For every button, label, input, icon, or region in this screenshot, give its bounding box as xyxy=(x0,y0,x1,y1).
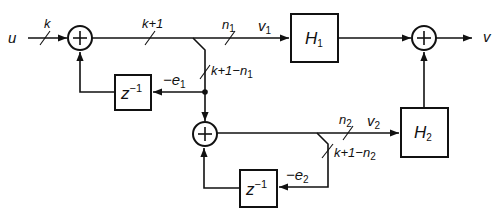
bus-width-k: k xyxy=(44,16,52,31)
h1-block: H1 xyxy=(291,14,338,62)
bus-width-k-plus-1: k+1 xyxy=(142,16,163,31)
output-label: v xyxy=(483,28,492,45)
signal-e1-label: −e1 xyxy=(163,71,186,90)
delay-block-1: z−1 xyxy=(115,75,151,110)
input-label: u xyxy=(8,29,17,46)
summer-2 xyxy=(193,122,217,146)
stage1-error-branch xyxy=(193,38,205,121)
delay-block-2: z−1 xyxy=(240,170,277,207)
bus-width-err1: k+1−n1 xyxy=(211,63,253,80)
bus-width-err2: k+1−n2 xyxy=(334,145,376,162)
bus-width-n1: n1 xyxy=(222,17,235,34)
input-signal: u k xyxy=(8,16,67,46)
h2-block: H2 xyxy=(401,108,448,157)
delay2-to-sum2-wire xyxy=(204,148,240,188)
summer-1 xyxy=(68,26,92,50)
signal-v1-label: v1 xyxy=(258,17,272,36)
signal-e2-label: −e2 xyxy=(286,166,309,185)
delay1-to-sum1-wire xyxy=(80,52,115,92)
signal-v2-label: v2 xyxy=(367,112,381,131)
summer-3 xyxy=(412,26,436,50)
cascaded-quantizer-diagram: u k k+1 n1 v1 k+1−n1 −e1 z−1 H1 v xyxy=(0,0,503,222)
bus-width-n2: n2 xyxy=(339,112,352,129)
